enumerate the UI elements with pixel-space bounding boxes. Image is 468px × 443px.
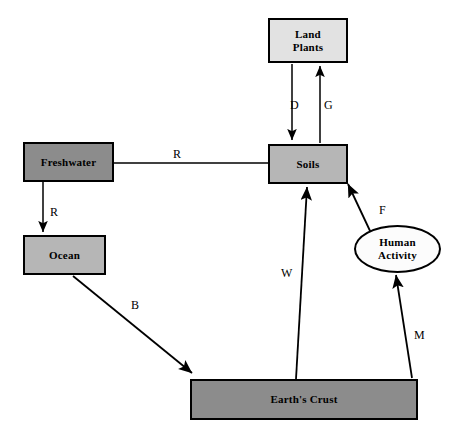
node-label-line2: Activity xyxy=(378,249,417,261)
edge-line-B xyxy=(73,276,192,373)
node-label-soils: Soils xyxy=(296,158,319,171)
node-label-earths-crust: Earth's Crust xyxy=(270,393,337,406)
node-ocean[interactable]: Ocean xyxy=(23,235,106,275)
edge-line-M xyxy=(396,275,412,378)
node-soils[interactable]: Soils xyxy=(268,144,348,184)
node-earths-crust[interactable]: Earth's Crust xyxy=(190,379,418,420)
edge-label-R-freshwater-soils: R xyxy=(173,147,181,162)
node-label-line1: Land xyxy=(295,28,321,40)
edge-label-G: G xyxy=(324,98,333,113)
node-label-line2: Plants xyxy=(293,41,324,53)
edge-label-D: D xyxy=(290,98,299,113)
edge-line-F xyxy=(348,184,371,233)
node-label-land-plants: Land Plants xyxy=(293,28,324,54)
edge-line-W xyxy=(296,187,307,379)
edge-label-B: B xyxy=(131,298,139,313)
node-human-activity[interactable]: Human Activity xyxy=(354,225,441,273)
diagram-edges-layer xyxy=(0,0,468,443)
diagram-canvas: Land Plants Freshwater Soils Ocean Human… xyxy=(0,0,468,443)
edge-label-R-freshwater-ocean: R xyxy=(50,205,58,220)
edge-label-W: W xyxy=(281,266,292,281)
node-label-human-activity: Human Activity xyxy=(378,236,417,262)
node-label-freshwater: Freshwater xyxy=(41,156,97,169)
node-label-line1: Human xyxy=(379,236,415,248)
edge-label-F: F xyxy=(379,203,386,218)
node-freshwater[interactable]: Freshwater xyxy=(23,142,114,182)
edge-label-M: M xyxy=(414,328,425,343)
node-land-plants[interactable]: Land Plants xyxy=(268,18,348,63)
node-label-ocean: Ocean xyxy=(49,249,80,262)
